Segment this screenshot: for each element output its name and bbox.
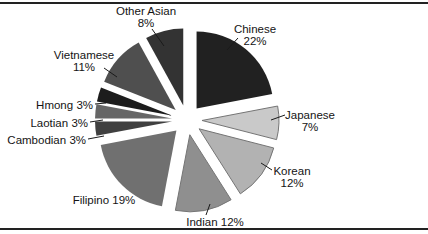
slice-label-pct-other_asian: 8%: [106, 17, 186, 29]
slice-label-pct-korean: 12%: [262, 177, 322, 189]
slice-label-name-filipino: Filipino: [73, 194, 109, 206]
slice-label-name-korean: Korean: [262, 165, 322, 177]
slice-label-name-chinese: Chinese: [225, 23, 285, 35]
slice-label-pct-indian: 12%: [221, 216, 244, 228]
slice-label-pct-hmong: 3%: [76, 99, 93, 111]
slice-label-japanese: Japanese7%: [279, 109, 341, 133]
slice-label-other_asian: Other Asian8%: [106, 5, 186, 29]
slice-label-name-indian: Indian: [186, 216, 217, 228]
exploded-pie-chart-figure: Chinese22%Japanese7%Korean12%Indian 12%F…: [0, 0, 428, 234]
slice-label-name-cambodian: Cambodian: [7, 134, 66, 146]
slice-label-hmong: Hmong 3%: [13, 99, 93, 111]
slice-label-chinese: Chinese22%: [225, 23, 285, 47]
bottom-border-line: [0, 228, 428, 230]
slice-label-name-japanese: Japanese: [279, 109, 341, 121]
slice-label-name-laotian: Laotian: [30, 117, 68, 129]
slice-label-pct-filipino: 19%: [112, 194, 135, 206]
slice-label-pct-vietnamese: 11%: [44, 61, 124, 73]
slice-label-pct-cambodian: 3%: [69, 134, 86, 146]
slice-label-vietnamese: Vietnamese11%: [44, 49, 124, 73]
slice-label-korean: Korean12%: [262, 165, 322, 189]
slice-label-pct-laotian: 3%: [71, 117, 88, 129]
slice-label-name-hmong: Hmong: [36, 99, 73, 111]
slice-label-cambodian: Cambodian 3%: [6, 134, 86, 146]
slice-label-name-other_asian: Other Asian: [106, 5, 186, 17]
slice-label-filipino: Filipino 19%: [54, 194, 154, 206]
leader-line-cambodian: [88, 136, 104, 139]
slice-label-name-vietnamese: Vietnamese: [44, 49, 124, 61]
slice-label-laotian: Laotian 3%: [8, 117, 88, 129]
slice-label-pct-chinese: 22%: [225, 35, 285, 47]
slice-label-pct-japanese: 7%: [279, 121, 341, 133]
leader-line-hmong: [95, 103, 106, 104]
slice-label-indian: Indian 12%: [175, 216, 255, 228]
